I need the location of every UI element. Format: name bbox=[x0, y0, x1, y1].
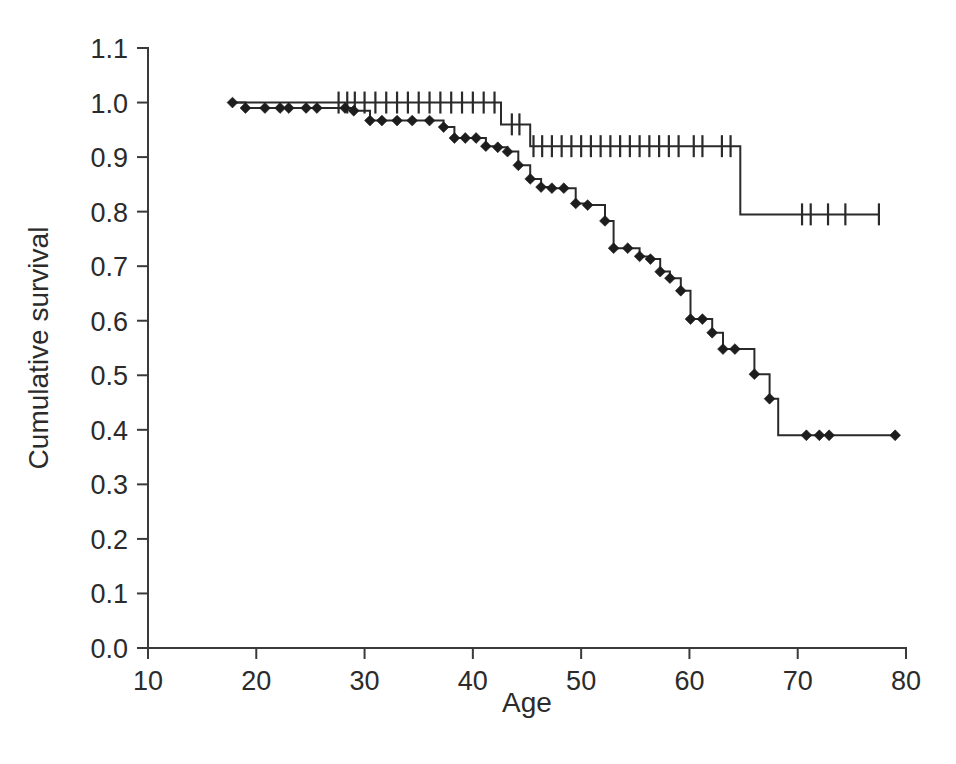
censor-diamond-marker bbox=[547, 183, 558, 194]
censor-diamond-marker bbox=[634, 251, 645, 262]
x-tick-label: 10 bbox=[133, 666, 163, 696]
axes-group bbox=[148, 48, 906, 648]
censor-diamond-marker bbox=[824, 430, 835, 441]
x-tick-label: 40 bbox=[458, 666, 488, 696]
censor-diamond-marker bbox=[301, 103, 312, 114]
survival-chart-figure: 0.00.10.20.30.40.50.60.70.80.91.01.1 102… bbox=[0, 0, 956, 764]
censor-diamond-marker bbox=[707, 327, 718, 338]
y-tick-label: 0.1 bbox=[90, 579, 128, 609]
censor-diamond-marker bbox=[730, 344, 741, 355]
censor-diamond-marker bbox=[513, 160, 524, 171]
censor-diamond-marker bbox=[240, 103, 251, 114]
censor-diamond-marker bbox=[471, 133, 482, 144]
censor-diamond-marker bbox=[570, 198, 581, 209]
censor-diamond-marker bbox=[764, 393, 775, 404]
y-tick-label: 0.5 bbox=[90, 361, 128, 391]
censor-diamond-marker bbox=[600, 216, 611, 227]
censor-diamond-marker bbox=[801, 430, 812, 441]
kaplan-meier-plot: 0.00.10.20.30.40.50.60.70.80.91.01.1 102… bbox=[0, 0, 956, 764]
series-group bbox=[227, 92, 901, 441]
y-tick-label: 0.8 bbox=[90, 198, 128, 228]
censor-diamond-marker bbox=[460, 133, 471, 144]
censor-diamond-marker bbox=[622, 243, 633, 254]
censor-diamond-marker bbox=[376, 115, 387, 126]
censor-diamond-marker bbox=[340, 103, 351, 114]
censor-diamond-marker bbox=[227, 97, 238, 108]
y-tick-label: 0.6 bbox=[90, 307, 128, 337]
censor-diamond-marker bbox=[608, 243, 619, 254]
censor-diamond-marker bbox=[718, 344, 729, 355]
censor-diamond-marker bbox=[814, 430, 825, 441]
axis-spines bbox=[148, 48, 906, 648]
x-tick-label: 70 bbox=[783, 666, 813, 696]
y-tick-label: 0.0 bbox=[90, 634, 128, 664]
censor-diamond-marker bbox=[525, 174, 536, 185]
y-tick-label: 0.9 bbox=[90, 143, 128, 173]
y-tick-label: 1.1 bbox=[90, 34, 128, 64]
y-axis-title: Cumulative survival bbox=[23, 227, 54, 470]
censor-diamond-marker bbox=[312, 103, 323, 114]
y-tick-label: 0.7 bbox=[90, 252, 128, 282]
censor-diamond-marker bbox=[749, 369, 760, 380]
censor-diamond-marker bbox=[283, 103, 294, 114]
censor-diamond-marker bbox=[348, 105, 359, 116]
censor-diamond-marker bbox=[449, 133, 460, 144]
x-tick-label: 80 bbox=[891, 666, 921, 696]
y-tick-label: 0.2 bbox=[90, 525, 128, 555]
censor-diamond-marker bbox=[645, 254, 656, 265]
censor-diamond-marker bbox=[697, 314, 708, 325]
x-axis-title: Age bbox=[502, 687, 552, 718]
censor-diamond-marker bbox=[675, 285, 686, 296]
censor-diamond-marker bbox=[407, 115, 418, 126]
censor-diamond-marker bbox=[392, 115, 403, 126]
y-tick-label: 1.0 bbox=[90, 89, 128, 119]
x-tick-label: 20 bbox=[241, 666, 271, 696]
censor-diamond-marker bbox=[365, 115, 376, 126]
y-tick-label: 0.4 bbox=[90, 416, 128, 446]
x-tick-label: 30 bbox=[350, 666, 380, 696]
censor-diamond-marker bbox=[260, 103, 271, 114]
step-line-lower-curve bbox=[233, 103, 896, 436]
censor-diamond-marker bbox=[424, 115, 435, 126]
y-tick-label: 0.3 bbox=[90, 470, 128, 500]
censor-diamond-marker bbox=[890, 430, 901, 441]
censor-diamond-marker bbox=[655, 266, 666, 277]
censor-diamond-marker bbox=[480, 141, 491, 152]
censor-diamond-marker bbox=[438, 122, 449, 133]
series-upper-curve bbox=[233, 92, 879, 226]
censor-diamond-marker bbox=[492, 142, 503, 153]
series-lower-curve bbox=[227, 97, 901, 441]
step-line-upper-curve bbox=[233, 103, 879, 215]
censor-diamond-marker bbox=[536, 182, 547, 193]
x-tick-label: 50 bbox=[566, 666, 596, 696]
censor-diamond-marker bbox=[582, 200, 593, 211]
censor-diamond-marker bbox=[558, 183, 569, 194]
censor-diamond-marker bbox=[665, 273, 676, 284]
x-tick-label: 60 bbox=[674, 666, 704, 696]
censor-diamond-marker bbox=[685, 314, 696, 325]
y-tick-group: 0.00.10.20.30.40.50.60.70.80.91.01.1 bbox=[90, 34, 148, 664]
